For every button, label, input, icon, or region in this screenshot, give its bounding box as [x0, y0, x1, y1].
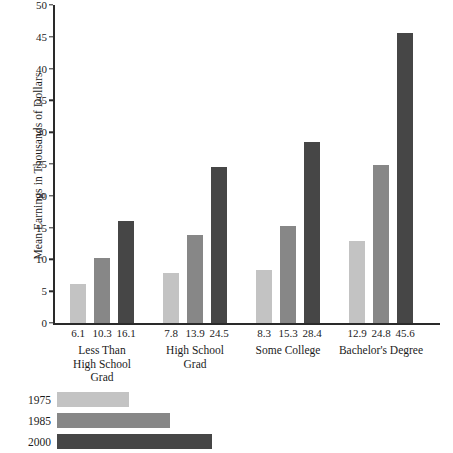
bar: [280, 226, 296, 323]
bar: [349, 241, 365, 323]
y-axis-tick-label: 25: [21, 159, 47, 170]
y-axis-tick-label: 15: [21, 222, 47, 233]
legend: 197519852000: [0, 392, 453, 453]
legend-item: 1985: [0, 413, 453, 434]
category-label-line: Grad: [125, 358, 265, 372]
y-axis-tick-label: 35: [21, 95, 47, 106]
y-axis-line: [53, 5, 55, 323]
bar: [187, 235, 203, 323]
y-axis-tick-label: 40: [21, 63, 47, 74]
y-axis-tick-label: 20: [21, 190, 47, 201]
bar-value-label: 24.5: [199, 328, 239, 339]
bar: [163, 273, 179, 323]
bar: [118, 221, 134, 323]
y-axis-tick-mark: [49, 322, 53, 323]
y-axis-tick-mark: [49, 68, 53, 69]
y-axis-tick-mark: [49, 36, 53, 37]
x-axis-line: [53, 323, 440, 325]
legend-item-label: 1985: [0, 416, 51, 428]
legend-item-swatch: [57, 413, 170, 428]
category-label-line: Bachelor's Degree: [311, 344, 451, 358]
bar: [256, 270, 272, 323]
bar: [304, 142, 320, 323]
category-label-line: Grad: [32, 371, 172, 385]
bar: [373, 165, 389, 323]
bar-value-label: 16.1: [106, 328, 146, 339]
bar-value-label: 28.4: [292, 328, 332, 339]
y-axis-tick-mark: [49, 100, 53, 101]
bar-value-label: 45.6: [385, 328, 425, 339]
legend-item-swatch: [57, 392, 129, 407]
y-axis-tick-mark: [49, 163, 53, 164]
bar: [94, 258, 110, 324]
legend-item-label: 2000: [0, 437, 51, 449]
y-axis-tick-label: 45: [21, 31, 47, 42]
legend-item-label: 1975: [0, 395, 51, 407]
y-axis-tick-label: 10: [21, 254, 47, 265]
y-axis-tick-label: 30: [21, 127, 47, 138]
bar: [211, 167, 227, 323]
y-axis-tick-label: 5: [21, 286, 47, 297]
legend-item: 1975: [0, 392, 453, 413]
y-axis-tick-label: 50: [21, 0, 47, 11]
bar: [397, 33, 413, 323]
bar-chart-figure: Mean Earnings in Thousands of Dollars 05…: [0, 0, 453, 453]
y-axis-tick-label: 0: [21, 318, 47, 329]
legend-item-swatch: [57, 434, 212, 449]
y-axis-tick-mark: [49, 290, 53, 291]
y-axis-tick-mark: [49, 131, 53, 132]
y-axis-tick-mark: [49, 259, 53, 260]
category-label: Bachelor's Degree: [311, 344, 451, 358]
legend-item: 2000: [0, 434, 453, 453]
y-axis-tick-mark: [49, 227, 53, 228]
y-axis-tick-mark: [49, 4, 53, 5]
bar: [70, 284, 86, 323]
plot-area: 05101520253035404550 6.110.316.17.813.92…: [53, 5, 440, 323]
y-axis-tick-mark: [49, 195, 53, 196]
